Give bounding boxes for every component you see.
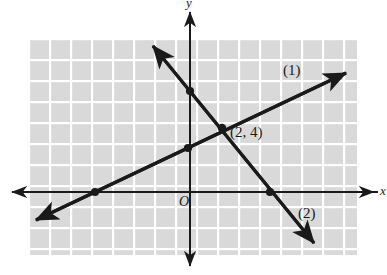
x-axis-label: x [380, 184, 386, 197]
point-y-intercept-line-2 [186, 87, 194, 95]
y-axis-label: y [186, 0, 192, 9]
point-x-intercept-line-1 [91, 188, 99, 196]
line-1-label: (1) [283, 63, 301, 78]
point-intersection [218, 124, 227, 133]
graph-figure: (1) (2) (2, 4) O y x [0, 0, 387, 275]
point-y-intercept-line-1 [184, 144, 192, 152]
origin-label: O [179, 195, 189, 209]
coordinate-plane-svg [0, 0, 387, 275]
intersection-point-label: (2, 4) [230, 125, 263, 140]
line-2-label: (2) [298, 206, 316, 221]
point-x-intercept-line-2 [266, 188, 274, 196]
